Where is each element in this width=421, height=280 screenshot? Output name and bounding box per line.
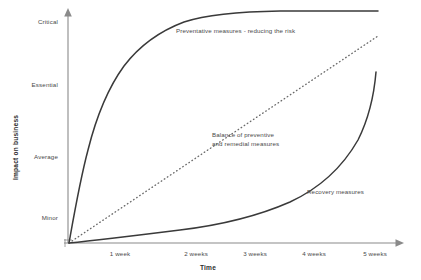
x-axis-title: Time [188,264,228,271]
y-axis-title: Impact on business [12,115,19,180]
x-tick-label-4-weeks: 4 weeks [294,250,334,257]
series-recovery-measures [69,72,376,243]
x-axis [64,239,404,247]
annotation-preventative-measures: Preventative measures - reducing the ris… [176,27,295,36]
x-tick-label-5-weeks: 5 weeks [355,250,395,257]
series-preventative-measures [69,11,378,243]
y-tick-label-essential: Essential [10,81,58,88]
y-tick-label-critical: Critical [10,18,58,25]
x-tick-label-3-weeks: 3 weeks [235,250,275,257]
x-tick-label-1-week: 1 week [100,250,140,257]
annotation-recovery-measures: Recovery measures [307,188,364,197]
chart-plot-area [0,0,421,280]
y-axis [64,8,72,243]
impact-over-time-chart: Critical Essential Average Minor 1 week … [0,0,421,280]
annotation-balance-measures: Balance of preventive and remedial measu… [212,131,279,148]
x-tick-label-2-weeks: 2 weeks [176,250,216,257]
y-tick-label-minor: Minor [10,214,58,221]
